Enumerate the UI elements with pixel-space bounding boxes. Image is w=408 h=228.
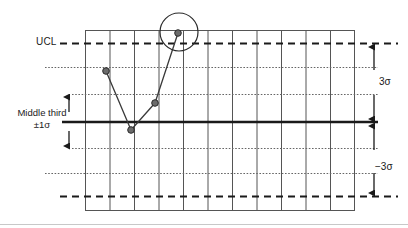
middle-third-label: Middle third <box>16 108 68 119</box>
plot-area-background <box>85 30 355 211</box>
control-chart-figure: UCL Middle third ±1σ 3σ −3σ <box>0 0 408 228</box>
lower-sigma-label: −3σ <box>375 161 393 173</box>
data-point <box>103 68 110 75</box>
upper-sigma-label: 3σ <box>379 76 391 88</box>
middle-third-sigma-label: ±1σ <box>16 120 68 131</box>
data-point <box>128 127 135 134</box>
data-point <box>152 100 159 107</box>
footer-divider <box>0 224 408 225</box>
data-point <box>175 30 182 37</box>
ucl-label: UCL <box>36 36 57 48</box>
